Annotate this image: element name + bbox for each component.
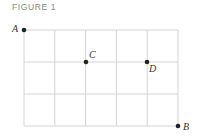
point-b-label: B	[183, 121, 189, 132]
point-c-dot	[84, 60, 89, 65]
point-c-label: C	[89, 49, 96, 60]
point-d-label: D	[148, 63, 157, 74]
grid-diagram: ACDB	[0, 0, 197, 138]
point-b-dot	[176, 124, 181, 129]
point-a-dot	[22, 28, 27, 33]
point-a-label: A	[11, 23, 19, 34]
